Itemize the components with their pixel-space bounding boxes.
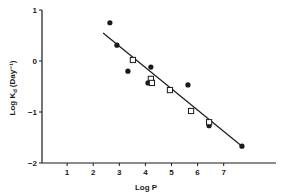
- y-tick-label: −1: [28, 108, 38, 117]
- y-axis-label-main: Log K: [8, 93, 17, 116]
- y-tick-label: 0: [33, 57, 38, 66]
- open-square-marker: [188, 108, 193, 113]
- open-square-marker: [167, 87, 172, 92]
- y-axis-label: Log Kd(Day⁻¹): [8, 60, 18, 115]
- y-axis-label-unit: (Day⁻¹): [8, 60, 17, 87]
- x-tick-label: 1: [65, 168, 70, 177]
- open-square-marker: [149, 80, 154, 85]
- filled-circle-marker: [239, 144, 244, 149]
- x-tick-label: 3: [117, 168, 122, 177]
- scatter-plot: 10−1−2 1234567 Log P Log Kd(Day⁻¹): [0, 0, 282, 195]
- axes: [42, 10, 276, 163]
- data-points: [107, 20, 244, 149]
- x-tick-label: 6: [195, 168, 200, 177]
- x-tick-label: 2: [91, 168, 96, 177]
- x-tick-label: 4: [143, 168, 148, 177]
- x-axis-ticks: 1234567: [65, 163, 227, 177]
- x-axis-label: Log P: [135, 183, 158, 192]
- filled-circle-marker: [185, 82, 190, 87]
- open-square-marker: [130, 57, 135, 62]
- y-axis-ticks: 10−1−2: [28, 6, 42, 168]
- open-square-marker: [206, 120, 211, 125]
- filled-circle-marker: [125, 69, 130, 74]
- filled-circle-marker: [114, 43, 119, 48]
- y-tick-label: 1: [33, 6, 38, 15]
- filled-circle-marker: [148, 65, 153, 70]
- chart-container: 10−1−2 1234567 Log P Log Kd(Day⁻¹): [0, 0, 282, 195]
- filled-circle-marker: [107, 20, 112, 25]
- y-tick-label: −2: [28, 159, 38, 168]
- x-tick-label: 7: [221, 168, 226, 177]
- svg-text:Log Kd(Day⁻¹): Log Kd(Day⁻¹): [8, 60, 18, 115]
- x-tick-label: 5: [169, 168, 174, 177]
- y-axis-label-sub: d: [12, 89, 18, 93]
